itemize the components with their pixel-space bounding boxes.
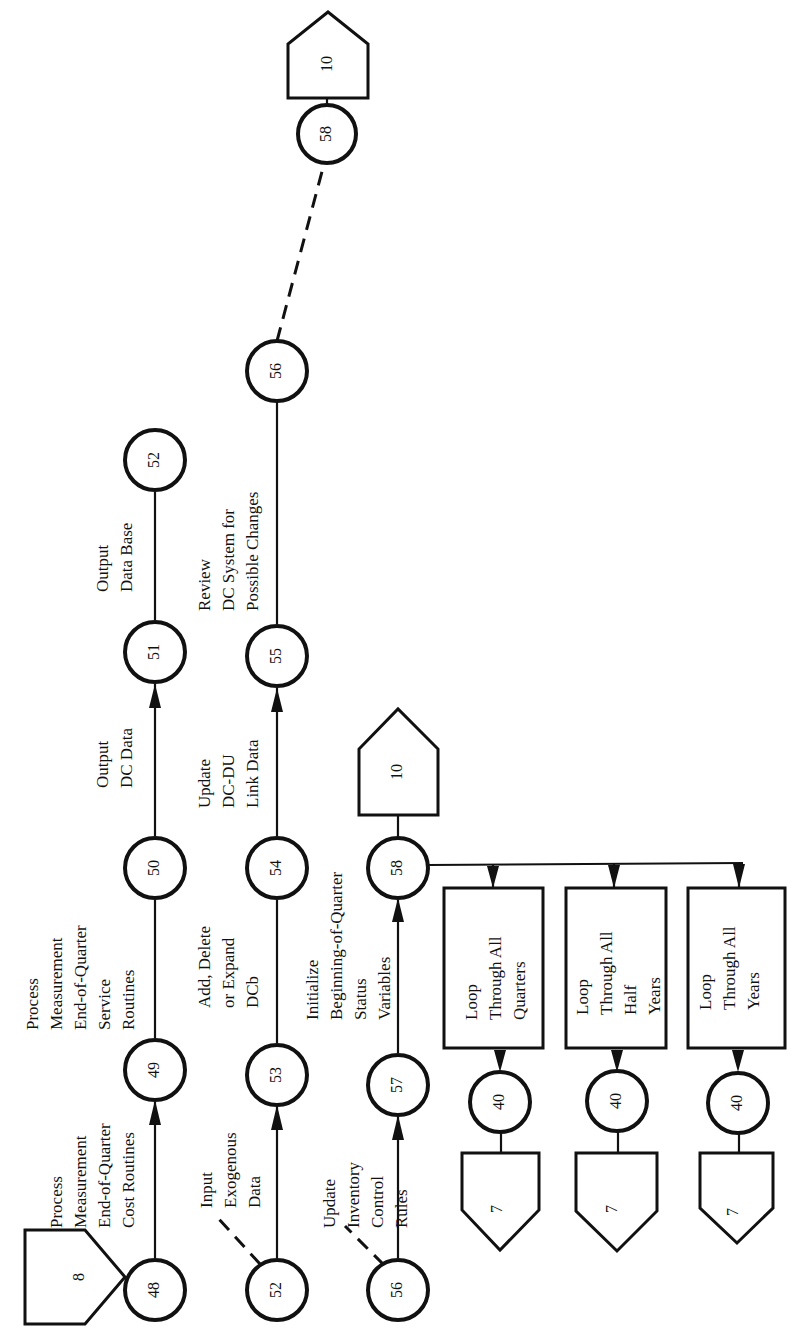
svg-text:7: 7 xyxy=(724,1208,741,1216)
svg-text:7: 7 xyxy=(603,1205,620,1213)
connector-10-top: 10 xyxy=(288,12,368,98)
label-49-50: Process Measurement End-of-Quarter Servi… xyxy=(23,925,138,1030)
svg-text:Loop: Loop xyxy=(696,974,715,1010)
svg-text:Through All: Through All xyxy=(486,936,505,1020)
loop-box-half-years: Loop Through All Half Years xyxy=(566,888,666,1048)
svg-text:48: 48 xyxy=(145,1282,162,1298)
svg-text:Half: Half xyxy=(621,984,640,1015)
node-40-half-years: 40 xyxy=(587,1071,647,1131)
svg-text:Years: Years xyxy=(645,977,664,1015)
svg-text:Output: Output xyxy=(93,545,112,593)
svg-text:DC-DU: DC-DU xyxy=(219,754,238,808)
connector-label: 8 xyxy=(70,1273,87,1281)
svg-text:Through All: Through All xyxy=(720,926,739,1010)
svg-text:7: 7 xyxy=(488,1205,505,1213)
svg-text:Data Base: Data Base xyxy=(117,523,136,592)
arrow-head-icon xyxy=(732,1050,744,1072)
arrow-head-icon xyxy=(271,1105,283,1130)
loop-box-quarters: Loop Through All Quarters xyxy=(444,888,543,1048)
arrow-head-icon xyxy=(392,1115,404,1140)
connector-7-half-years: 7 xyxy=(576,1153,657,1251)
svg-text:Exogenous: Exogenous xyxy=(221,1132,240,1208)
svg-text:Output: Output xyxy=(93,741,112,789)
svg-text:Update: Update xyxy=(195,759,214,808)
node-48: 48 xyxy=(125,1260,185,1320)
svg-text:54: 54 xyxy=(267,860,284,876)
svg-text:Input: Input xyxy=(197,1172,216,1208)
label-54-55: Update DC-DU Link Data xyxy=(195,739,262,808)
svg-text:Years: Years xyxy=(744,972,763,1010)
svg-text:or Expand: or Expand xyxy=(219,937,238,1008)
svg-text:Loop: Loop xyxy=(462,984,481,1020)
svg-text:Cost Routines: Cost Routines xyxy=(119,1132,138,1228)
svg-text:Beginning-of-Quarter: Beginning-of-Quarter xyxy=(327,871,346,1020)
node-58-row3: 58 xyxy=(368,838,428,898)
loop-box-years: Loop Through All Years xyxy=(688,888,785,1048)
svg-text:Through All: Through All xyxy=(597,931,616,1015)
label-53-54: Add, Delete or Expand DCb xyxy=(195,926,262,1008)
svg-text:Initialize: Initialize xyxy=(303,960,322,1020)
node-52-row1: 52 xyxy=(125,430,185,490)
svg-text:Inventory: Inventory xyxy=(344,1161,363,1228)
svg-text:DCb: DCb xyxy=(243,976,262,1008)
node-53: 53 xyxy=(247,1045,307,1105)
svg-text:DC Data: DC Data xyxy=(117,728,136,788)
label-51-52: Output Data Base xyxy=(93,523,136,592)
svg-text:58: 58 xyxy=(317,126,334,142)
branch-58-loops xyxy=(428,863,743,865)
svg-text:Variables: Variables xyxy=(375,957,394,1020)
svg-text:40: 40 xyxy=(728,1095,745,1111)
node-52-row2: 52 xyxy=(247,1260,307,1320)
arrow-head-icon xyxy=(611,1050,623,1072)
svg-text:Control: Control xyxy=(368,1176,387,1228)
svg-text:DC System for: DC System for xyxy=(219,509,238,611)
svg-text:57: 57 xyxy=(388,1077,405,1093)
svg-text:51: 51 xyxy=(145,644,162,660)
connector-7-quarters: 7 xyxy=(462,1153,539,1250)
svg-text:Add, Delete: Add, Delete xyxy=(195,926,214,1008)
label-52-53: Input Exogenous Data xyxy=(197,1132,264,1208)
connector-7-years: 7 xyxy=(700,1153,773,1243)
arrow-head-icon xyxy=(608,865,620,888)
svg-text:40: 40 xyxy=(607,1093,624,1109)
svg-text:Routines: Routines xyxy=(119,970,138,1030)
dashed-link-56 xyxy=(345,1226,384,1265)
label-50-51: Output DC Data xyxy=(93,728,136,788)
arrow-head-icon xyxy=(149,684,161,708)
svg-text:58: 58 xyxy=(388,860,405,876)
connector-10-row3: 10 xyxy=(359,709,438,815)
node-40-quarters: 40 xyxy=(470,1072,530,1132)
arrow-head-icon xyxy=(392,898,404,922)
svg-text:Possible Changes: Possible Changes xyxy=(243,492,262,611)
svg-text:55: 55 xyxy=(267,648,284,664)
svg-text:53: 53 xyxy=(267,1067,284,1083)
svg-text:Link Data: Link Data xyxy=(243,739,262,808)
svg-text:52: 52 xyxy=(267,1282,284,1298)
node-57: 57 xyxy=(368,1055,428,1115)
arrow-head-icon xyxy=(271,688,283,712)
connector-8: 8 xyxy=(25,1230,125,1324)
node-49: 49 xyxy=(125,1040,185,1100)
arrow-head-icon xyxy=(149,1100,161,1125)
svg-text:Measurement: Measurement xyxy=(71,1135,90,1228)
svg-text:Status: Status xyxy=(351,978,370,1020)
svg-text:40: 40 xyxy=(490,1094,507,1110)
node-40-years: 40 xyxy=(708,1073,768,1133)
svg-text:10: 10 xyxy=(388,764,405,780)
arrow-head-icon xyxy=(733,864,745,888)
svg-text:Measurement: Measurement xyxy=(47,937,66,1030)
svg-text:Process: Process xyxy=(23,978,42,1030)
svg-text:50: 50 xyxy=(145,860,162,876)
node-50: 50 xyxy=(125,838,185,898)
svg-text:10: 10 xyxy=(318,56,335,72)
dashed-link-52 xyxy=(218,1218,260,1264)
svg-text:Review: Review xyxy=(195,558,214,611)
svg-text:56: 56 xyxy=(388,1282,405,1298)
svg-text:Service: Service xyxy=(95,979,114,1030)
svg-text:Rules: Rules xyxy=(392,1189,411,1228)
node-58-top: 58 xyxy=(298,105,356,163)
svg-text:52: 52 xyxy=(145,452,162,468)
svg-text:Quarters: Quarters xyxy=(510,961,529,1020)
svg-text:49: 49 xyxy=(145,1062,162,1078)
label-55-56: Review DC System for Possible Changes xyxy=(195,492,262,611)
